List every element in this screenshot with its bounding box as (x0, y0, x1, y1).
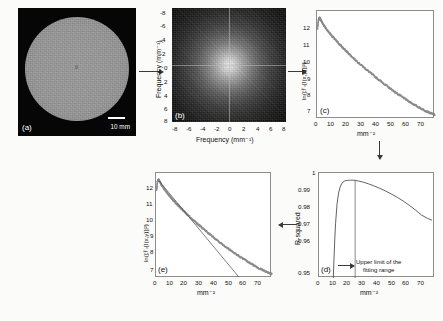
panel-b-tag: (b) (175, 111, 185, 120)
panel-d-xlabel: mm⁻² (360, 289, 378, 296)
panel-e-ylabel: ln(|ℱᵣ[I(x,y)]|²) (142, 224, 149, 262)
panel-e-xlabel: mm⁻² (197, 289, 215, 296)
panel-c-ylabel: ln(|ℱᵣ[I(x,y)]|²) (300, 62, 307, 100)
annotation-line-2: fitting range (356, 267, 401, 275)
panel-d-tag: (d) (321, 266, 331, 274)
panel-d-ylabel: R-squared (294, 212, 301, 245)
panel-c-tag: (c) (320, 107, 329, 115)
panel-e-tag: (e) (158, 266, 168, 274)
panel-c-xlabel: mm⁻² (357, 130, 375, 137)
panel-b-ylabel: Frequency (mm⁻¹) (155, 40, 162, 98)
phantom-noise-texture (25, 17, 129, 121)
annotation-line-1: Upper limit of the (356, 259, 401, 267)
figure-root: 10 mm (a) (b) -8 -6 -4 -2 0 2 4 6 8 Freq… (0, 0, 443, 321)
arrow-c-to-d (379, 141, 380, 159)
panel-b-xlabel: Frequency (mm⁻¹) (196, 136, 254, 143)
arrow-d-to-e (279, 224, 297, 225)
panel-c-plot (316, 10, 434, 118)
panel-e-plot (155, 172, 271, 277)
scalebar-icon (108, 117, 125, 119)
panel-e-curve (156, 173, 272, 278)
panel-a-tag: (a) (22, 123, 32, 132)
panel-c-curve (317, 11, 435, 119)
panel-a-phantom-image: 10 mm (a) (18, 8, 136, 136)
fft-crosshair-vertical (229, 8, 230, 122)
phantom-center-speck (75, 65, 78, 69)
panel-b-fourier-spectrum: (b) (172, 8, 286, 122)
fitting-range-annotation: Upper limit of the fitting range (356, 259, 401, 274)
annotation-arrow (338, 265, 354, 266)
scalebar-label: 10 mm (110, 123, 130, 130)
